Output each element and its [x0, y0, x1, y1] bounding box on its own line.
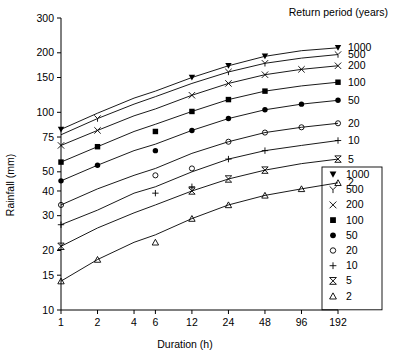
- series-right-label: 5: [348, 153, 354, 165]
- x-tick-label: 192: [329, 316, 347, 328]
- marker-filled-triangle-down: [330, 172, 337, 178]
- marker-filled-circle: [262, 107, 267, 112]
- x-tick-label: 48: [259, 316, 271, 328]
- y-axis-title: Rainfall (mm): [4, 154, 16, 216]
- marker-filled-square: [226, 97, 231, 102]
- series-right-label: 200: [348, 59, 366, 71]
- y-tick-label: 20: [42, 244, 54, 256]
- series-right-label: 50: [348, 94, 360, 106]
- legend-item-label: 1000: [346, 168, 370, 180]
- series-curve: [61, 55, 338, 135]
- x-tick-label: 96: [296, 316, 308, 328]
- marker-filled-square: [335, 79, 340, 84]
- series-curve: [61, 183, 338, 281]
- marker-filled-circle: [95, 162, 100, 167]
- marker-open-triangle-up: [152, 239, 158, 245]
- marker-filled-circle: [330, 232, 336, 238]
- legend-item-label: 200: [346, 198, 364, 210]
- y-tick-label: 200: [36, 46, 54, 58]
- marker-y-glyph: [225, 69, 231, 75]
- legend-item-label: 500: [346, 183, 364, 195]
- series-curve: [61, 66, 338, 146]
- marker-plus: [58, 222, 64, 228]
- marker-filled-triangle-down: [225, 63, 231, 69]
- series-right-labels: 100050020010050201052: [348, 41, 372, 188]
- x-tick-label: 4: [131, 316, 137, 328]
- marker-y-glyph: [330, 186, 337, 193]
- marker-x-cross: [330, 202, 337, 209]
- legend-title: Return period (years): [289, 6, 388, 18]
- x-axis-ticks: 124612244896192: [58, 310, 347, 328]
- y-tick-label: 50: [42, 165, 54, 177]
- marker-filled-circle: [58, 178, 63, 183]
- y-tick-label: 75: [42, 131, 54, 143]
- legend-item-label: 20: [346, 244, 358, 256]
- legend-item-label: 10: [346, 259, 358, 271]
- legend-item-label: 50: [346, 229, 358, 241]
- marker-filled-square: [58, 159, 63, 164]
- legend-item-label: 100: [346, 214, 364, 226]
- series-curves: [61, 48, 338, 281]
- marker-filled-square: [330, 217, 336, 223]
- series-curve: [61, 48, 338, 130]
- y-tick-label: 30: [42, 209, 54, 221]
- marker-filled-circle: [189, 128, 194, 133]
- x-tick-label: 24: [223, 316, 235, 328]
- marker-open-circle: [153, 173, 158, 178]
- y-tick-label: 40: [42, 185, 54, 197]
- marker-plus: [152, 190, 158, 196]
- legend-item-label: 5: [346, 274, 352, 286]
- marker-open-triangle-up: [330, 293, 337, 299]
- series-right-label: 10: [348, 134, 360, 146]
- marker-open-circle: [189, 166, 194, 171]
- marker-filled-triangle-down: [189, 75, 195, 81]
- marker-filled-square: [262, 88, 267, 93]
- marker-filled-circle: [335, 98, 340, 103]
- marker-open-triangle-up: [335, 180, 341, 186]
- marker-y-glyph: [94, 115, 100, 121]
- y-axis-ticks: 30020015010075504030201510: [36, 12, 61, 316]
- y-tick-label: 100: [36, 106, 54, 118]
- y-tick-label: 150: [36, 71, 54, 83]
- marker-filled-square: [189, 109, 194, 114]
- series-right-label: 500: [348, 48, 366, 60]
- x-tick-label: 1: [58, 316, 64, 328]
- x-tick-label: 2: [95, 316, 101, 328]
- rainfall-duration-chart: 30020015010075504030201510 1246122448961…: [0, 0, 393, 359]
- marker-x-cross: [94, 127, 100, 133]
- x-tick-label: 6: [152, 316, 158, 328]
- marker-plus: [262, 147, 268, 153]
- marker-open-circle: [330, 248, 335, 253]
- series-curve: [61, 82, 338, 162]
- marker-filled-circle: [153, 148, 158, 153]
- y-tick-label: 300: [36, 12, 54, 24]
- marker-filled-triangle-down: [58, 127, 64, 133]
- marker-bowtie: [225, 176, 231, 182]
- x-tick-label: 12: [186, 316, 198, 328]
- marker-bowtie: [330, 278, 337, 285]
- marker-filled-circle: [299, 101, 304, 106]
- marker-filled-circle: [226, 116, 231, 121]
- marker-plus: [330, 262, 337, 269]
- marker-plus: [335, 137, 341, 143]
- x-axis-title: Duration (h): [157, 338, 212, 350]
- marker-x-cross: [189, 92, 195, 98]
- axes: [61, 18, 338, 310]
- series-curve: [61, 141, 338, 225]
- legend: 100050020010050201052: [322, 167, 382, 310]
- marker-filled-square: [95, 144, 100, 149]
- y-tick-label: 15: [42, 269, 54, 281]
- chart-container: 30020015010075504030201510 1246122448961…: [0, 0, 393, 359]
- marker-x-cross: [225, 80, 231, 86]
- legend-item-label: 2: [346, 290, 352, 302]
- marker-plus: [225, 156, 231, 162]
- series-right-label: 20: [348, 117, 360, 129]
- series-curve: [61, 159, 338, 246]
- y-tick-label: 10: [42, 304, 54, 316]
- marker-filled-square: [153, 129, 158, 134]
- series-right-label: 100: [348, 76, 366, 88]
